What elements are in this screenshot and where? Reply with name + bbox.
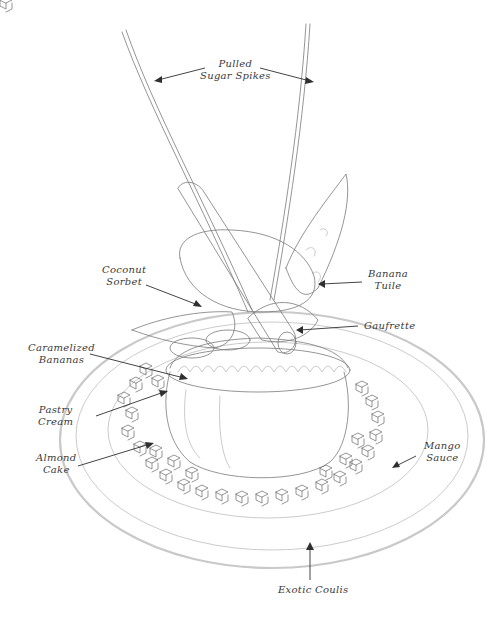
label-caramelized-bananas: Caramelized Bananas [28, 342, 95, 366]
label-coconut-sorbet: Coconut Sorbet [102, 264, 146, 288]
almond-cake [166, 372, 349, 478]
label-pastry-cream: Pastry Cream [38, 404, 73, 428]
label-almond-cake: Almond Cake [36, 452, 77, 476]
gaufrette [178, 182, 296, 354]
label-exotic-coulis: Exotic Coulis [278, 584, 349, 596]
mango-cubes [0, 0, 384, 506]
label-gaufrette: Gaufrette [364, 320, 415, 332]
dessert-diagram: Pulled Sugar Spikes Coconut Sorbet Banan… [0, 0, 496, 617]
banana-tuile [132, 174, 348, 348]
plate [60, 312, 484, 568]
label-banana-tuile: Banana Tuile [368, 268, 408, 292]
dessert-sketch [0, 0, 496, 617]
label-mango-sauce: Mango Sauce [424, 440, 461, 464]
label-pulled-sugar-spikes: Pulled Sugar Spikes [200, 58, 271, 82]
